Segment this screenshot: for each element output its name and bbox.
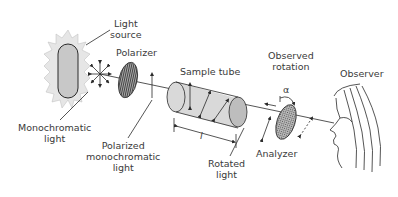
- observed-rotation-label-line2: rotation: [268, 61, 314, 72]
- polarimeter-diagram: Light source Polarizer Sample tube Obser…: [0, 0, 398, 197]
- polarizer-label: Polarizer: [116, 47, 157, 58]
- monochromatic-label-line2: light: [18, 133, 91, 144]
- polarized-label-line3: light: [86, 162, 160, 173]
- polarized-label-line1: Polarized: [86, 140, 160, 151]
- monochromatic-light-label: Monochromatic light: [18, 122, 91, 144]
- rotation-angle-arc: [280, 97, 294, 104]
- light-source-label-line1: Light: [110, 18, 142, 29]
- polarized-light-label: Polarized monochromatic light: [86, 140, 160, 173]
- polarizer-icon: [115, 61, 140, 100]
- rotated-light-label: Rotated light: [208, 158, 245, 180]
- light-source-icon: [44, 30, 90, 108]
- length-symbol: l: [200, 130, 203, 141]
- polarized-label-line2: monochromatic: [86, 151, 160, 162]
- observed-rotation-label: Observed rotation: [268, 50, 314, 72]
- monochromatic-label-line1: Monochromatic: [18, 122, 91, 133]
- diagram-graphics: [0, 0, 398, 197]
- alpha-symbol: α: [283, 84, 289, 95]
- light-source-label-line2: source: [110, 29, 142, 40]
- light-source-label: Light source: [110, 18, 142, 40]
- observed-rotation-label-line1: Observed: [268, 50, 314, 61]
- rotated-label-line1: Rotated: [208, 158, 245, 169]
- observer-label: Observer: [340, 68, 384, 79]
- observer-face-icon: [330, 84, 381, 172]
- analyzer-icon: [266, 102, 300, 142]
- sample-tube-icon: [167, 82, 247, 128]
- rotated-label-line2: light: [208, 169, 245, 180]
- analyzer-label: Analyzer: [256, 148, 297, 159]
- rotated-light-arrow: [262, 118, 270, 140]
- observed-light-arrow: [300, 118, 312, 136]
- sample-tube-label: Sample tube: [180, 66, 240, 77]
